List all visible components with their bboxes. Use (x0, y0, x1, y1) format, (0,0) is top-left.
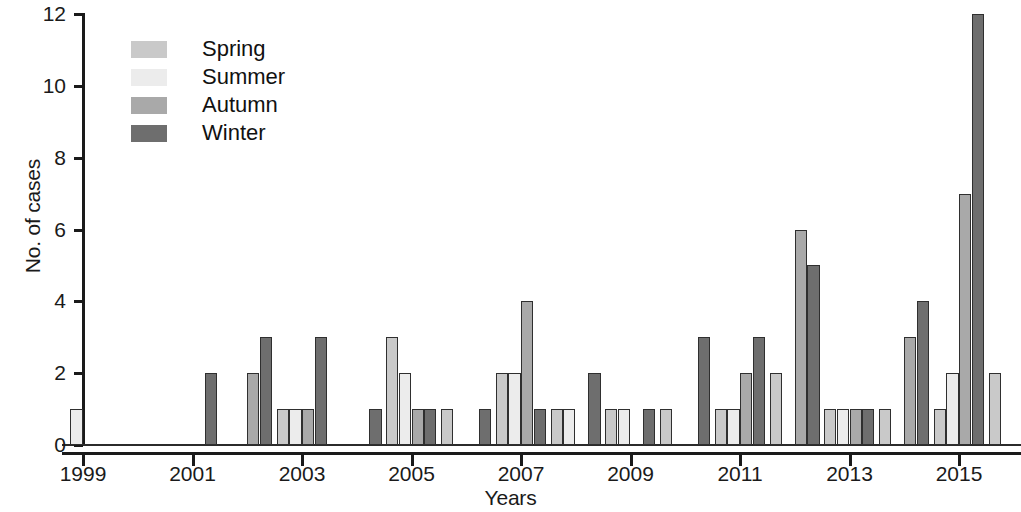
legend-label: Winter (202, 122, 266, 144)
bar-2003-summer (289, 409, 301, 445)
y-tick-mark (74, 300, 83, 303)
y-tick-mark (74, 13, 83, 16)
bar-2009-spring (605, 409, 617, 445)
bar-2004-winter (369, 409, 381, 445)
legend-label: Summer (202, 66, 285, 88)
bar-2011-spring (715, 409, 727, 445)
y-tick-label: 12 (26, 3, 66, 24)
legend-item-summer: Summer (131, 64, 391, 90)
x-tick-label: 2005 (367, 462, 457, 486)
y-tick-label: 8 (26, 147, 66, 168)
bar-2003-spring (277, 409, 289, 445)
bar-2013-autumn (850, 409, 862, 445)
bar-2006-spring (441, 409, 453, 445)
bar-2005-winter (424, 409, 436, 445)
bar-2012-winter (807, 265, 819, 445)
bar-2007-spring (496, 373, 508, 445)
bar-2014-spring (879, 409, 891, 445)
bar-2012-autumn (795, 230, 807, 446)
x-axis-title: Years (0, 486, 1021, 510)
y-tick-label: 4 (26, 290, 66, 311)
legend-swatch-autumn (131, 97, 167, 114)
y-tick-label: 10 (26, 75, 66, 96)
bar-2008-spring (551, 409, 563, 445)
bar-2013-spring (824, 409, 836, 445)
bar-2001-winter (205, 373, 217, 445)
bar-2015-winter (972, 14, 984, 445)
bar-2016-spring (989, 373, 1001, 445)
bar-2002-winter (260, 337, 272, 445)
bar-2013-winter (862, 409, 874, 445)
bar-2012-spring (770, 373, 782, 445)
bar-2005-autumn (412, 409, 424, 445)
legend-swatch-spring (131, 41, 167, 58)
bar-2002-autumn (247, 373, 259, 445)
bar-2015-summer (946, 373, 958, 445)
x-tick-label: 2007 (476, 462, 566, 486)
bar-2015-spring (934, 409, 946, 445)
bar-2005-spring (386, 337, 398, 445)
bar-2015-autumn (959, 194, 971, 445)
legend-item-autumn: Autumn (131, 92, 391, 118)
bar-2010-winter (698, 337, 710, 445)
x-tick-label: 2009 (586, 462, 676, 486)
x-tick-label: 2013 (805, 462, 895, 486)
bar-2007-summer (508, 373, 520, 445)
bar-2007-winter (534, 409, 546, 445)
bar-2008-winter (588, 373, 600, 445)
bar-2006-winter (479, 409, 491, 445)
x-axis-line (62, 452, 1021, 455)
legend-label: Spring (202, 38, 266, 60)
bar-2014-winter (917, 301, 929, 445)
bar-2011-winter (753, 337, 765, 445)
legend-item-spring: Spring (131, 36, 391, 62)
x-tick-label: 2011 (695, 462, 785, 486)
x-tick-label: 2003 (257, 462, 347, 486)
bar-2005-summer (399, 373, 411, 445)
bar-1999-summer (70, 409, 82, 445)
y-tick-label: 2 (26, 362, 66, 383)
bar-2011-autumn (740, 373, 752, 445)
y-tick-label: 0 (26, 434, 66, 455)
bar-2009-summer (618, 409, 630, 445)
legend: SpringSummerAutumnWinter (131, 36, 391, 148)
legend-swatch-winter (131, 125, 167, 142)
legend-item-winter: Winter (131, 120, 391, 146)
y-tick-mark (74, 372, 83, 375)
bar-2007-autumn (521, 301, 533, 445)
y-tick-mark (74, 157, 83, 160)
x-tick-label: 2015 (914, 462, 1004, 486)
bar-2014-autumn (904, 337, 916, 445)
y-tick-mark (74, 229, 83, 232)
x-tick-label: 1999 (38, 462, 128, 486)
bar-2011-summer (727, 409, 739, 445)
bar-2008-summer (563, 409, 575, 445)
y-tick-label: 6 (26, 219, 66, 240)
bar-2013-summer (837, 409, 849, 445)
legend-swatch-summer (131, 69, 167, 86)
legend-label: Autumn (202, 94, 278, 116)
bar-2003-autumn (302, 409, 314, 445)
bar-2010-spring (660, 409, 672, 445)
bar-2009-winter (643, 409, 655, 445)
bar-2003-winter (315, 337, 327, 445)
chart-figure: No. of cases Years 024681012 19992001200… (0, 0, 1021, 512)
x-tick-label: 2001 (148, 462, 238, 486)
y-tick-mark (74, 85, 83, 88)
